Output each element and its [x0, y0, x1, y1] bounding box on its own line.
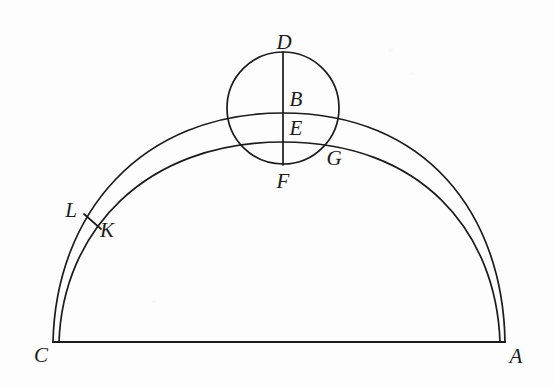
label-L: L	[65, 200, 77, 221]
label-D: D	[276, 32, 291, 53]
scan-speck	[410, 72, 414, 75]
label-E: E	[290, 118, 303, 139]
label-G: G	[326, 148, 341, 169]
label-A: A	[510, 346, 523, 367]
geometric-figure: D B E G F L K C A	[0, 0, 554, 389]
scan-speck	[388, 48, 393, 52]
geometry-canvas	[0, 0, 554, 389]
label-C: C	[34, 345, 48, 366]
chord-segment-LK	[84, 214, 101, 229]
label-K: K	[100, 220, 114, 241]
label-F: F	[277, 171, 290, 192]
scan-speck	[152, 300, 156, 303]
label-B: B	[290, 89, 303, 110]
outer-arc-CBA	[53, 113, 505, 342]
